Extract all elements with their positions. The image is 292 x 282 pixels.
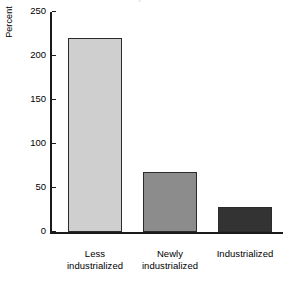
- y-tick-label: 50: [35, 182, 46, 192]
- y-tick-mark: [52, 11, 56, 12]
- y-tick-mark: [52, 99, 56, 100]
- bar: [68, 38, 122, 232]
- bar: [218, 207, 272, 232]
- cropped-figure-title: Percent distribution by level of industr…: [0, 0, 292, 2]
- y-tick-label: 150: [30, 94, 46, 104]
- bar-chart-figure: Percent distribution by level of industr…: [0, 0, 292, 282]
- y-axis-title: Percent: [2, 0, 16, 138]
- plot-area: 050100150200250: [50, 12, 292, 232]
- x-axis-label: Industrialized: [192, 248, 292, 260]
- y-tick-mark: [52, 187, 56, 188]
- y-tick-label: 250: [30, 6, 46, 16]
- x-axis-label-line: Industrialized: [192, 248, 292, 260]
- x-axis-line: [50, 232, 283, 234]
- y-tick-label: 100: [30, 138, 46, 148]
- x-axis-label-line: industrialized: [117, 260, 223, 272]
- bar: [143, 172, 197, 232]
- y-tick-mark: [52, 143, 56, 144]
- y-tick-label: 200: [30, 50, 46, 60]
- x-axis-category-labels: LessindustrializedNewlyindustrializedInd…: [50, 248, 292, 282]
- y-tick-mark: [52, 55, 56, 56]
- y-tick-mark: [52, 231, 56, 232]
- y-axis-line: [50, 12, 52, 232]
- y-tick-label: 0: [41, 226, 46, 236]
